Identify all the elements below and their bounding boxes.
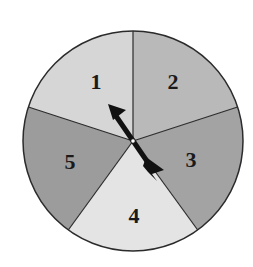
spinner-pivot xyxy=(131,139,136,144)
spinner: 1 2 3 4 5 xyxy=(0,0,253,267)
label-3: 3 xyxy=(186,147,197,172)
label-2: 2 xyxy=(168,69,179,94)
label-4: 4 xyxy=(129,203,140,228)
label-5: 5 xyxy=(65,149,76,174)
label-1: 1 xyxy=(91,69,102,94)
